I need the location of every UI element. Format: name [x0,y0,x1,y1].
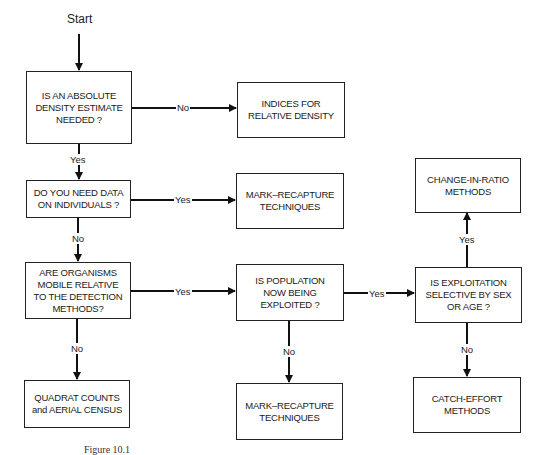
edge-label-absolute-yes: Yes [69,154,87,165]
node-text: ARE ORGANISMS MOBILE RELATIVE TO THE DET… [34,267,123,315]
node-text: MARK–RECAPTURE TECHNIQUES [245,400,334,424]
question-absolute-density: IS AN ABSOLUTE DENSITY ESTIMATE NEEDED ? [26,71,132,144]
edge-label-selective-yes: Yes [458,234,476,245]
result-mark-recapture-bottom: MARK–RECAPTURE TECHNIQUES [236,383,343,440]
result-mark-recapture-top: MARK–RECAPTURE TECHNIQUES [236,173,344,229]
question-population-exploited: IS POPULATION NOW BEING EXPLOITED ? [236,264,344,321]
result-indices-relative-density: INDICES FOR RELATIVE DENSITY [237,82,345,138]
node-text: DO YOU NEED DATA ON INDIVIDUALS ? [34,187,124,211]
edge-label-mobile-yes: Yes [174,286,192,297]
node-text: IS POPULATION NOW BEING EXPLOITED ? [255,275,325,311]
question-data-on-individuals: DO YOU NEED DATA ON INDIVIDUALS ? [26,180,131,218]
node-text: MARK–RECAPTURE TECHNIQUES [246,189,335,213]
edge-label-absolute-no: No [176,102,190,113]
question-organisms-mobile: ARE ORGANISMS MOBILE RELATIVE TO THE DET… [25,262,131,319]
edge-label-exploited-no: No [282,346,296,357]
node-text: QUADRAT COUNTS and AERIAL CENSUS [32,392,122,416]
result-change-in-ratio: CHANGE-IN-RATIO METHODS [415,158,521,213]
figure-caption: Figure 10.1 [84,444,130,455]
node-text: INDICES FOR RELATIVE DENSITY [248,98,334,122]
result-catch-effort: CATCH-EFFORT METHODS [413,377,521,433]
edge-label-mobile-no: No [70,343,84,354]
edge-label-selective-no: No [460,344,474,355]
node-text: CHANGE-IN-RATIO METHODS [427,174,509,198]
question-exploitation-selective: IS EXPLOITATION SELECTIVE BY SEX OR AGE … [415,267,522,323]
start-label: Start [67,12,92,26]
edge-label-exploited-yes: Yes [368,288,386,299]
result-quadrat-counts: QUADRAT COUNTS and AERIAL CENSUS [24,380,130,428]
edge-label-individuals-no: No [71,233,85,244]
edge-label-individuals-yes: Yes [174,194,192,205]
node-text: IS EXPLOITATION SELECTIVE BY SEX OR AGE … [426,277,512,313]
node-text: IS AN ABSOLUTE DENSITY ESTIMATE NEEDED ? [35,90,122,126]
node-text: CATCH-EFFORT METHODS [432,393,503,417]
